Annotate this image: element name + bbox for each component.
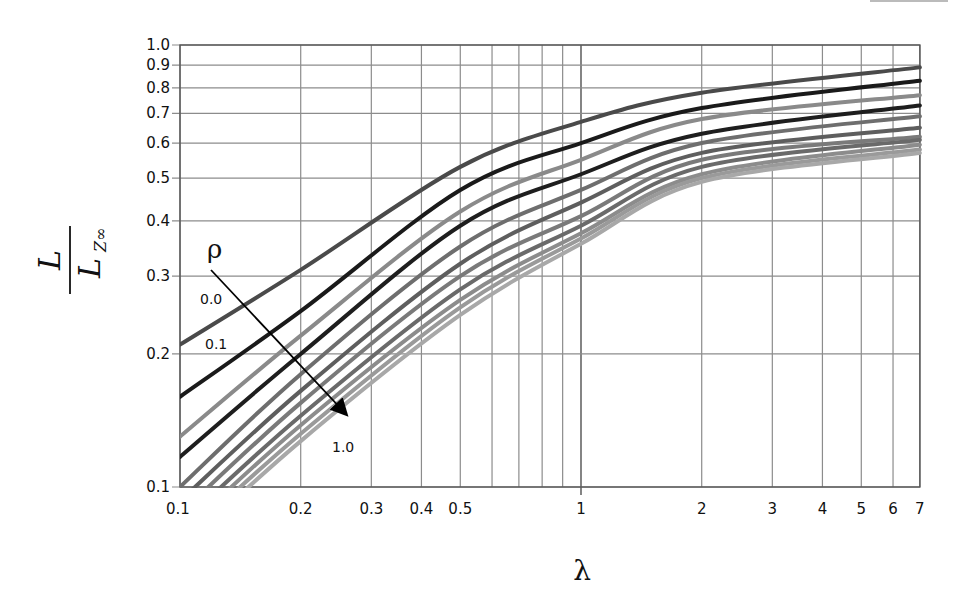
y-tick-label: 0.3: [146, 267, 170, 285]
y-tick-label: 0.4: [146, 212, 170, 230]
x-axis-label: λ: [573, 554, 591, 587]
x-tick-label: 0.2: [289, 500, 313, 518]
x-tick-label: 1: [576, 500, 586, 518]
y-tick-label: 0.6: [146, 134, 170, 152]
rho-label-0-0: 0.0: [200, 291, 222, 307]
tick-labels: 0.10.20.30.40.50.60.70.80.91.00.10.20.30…: [146, 36, 925, 518]
curve-rho-0: [180, 67, 920, 344]
y-tick-label: 0.5: [146, 169, 170, 187]
curve-rho-6: [180, 137, 920, 514]
y-tick-label: 0.1: [146, 478, 170, 496]
chart-svg: 0.10.20.30.40.50.60.70.80.91.00.10.20.30…: [0, 0, 962, 606]
y-tick-label: 0.2: [146, 345, 170, 363]
y-axis-label: L L Z∞: [32, 226, 110, 294]
rho-symbol: ρ: [207, 234, 222, 264]
y-label-numerator: L: [32, 250, 67, 271]
rho-label-1-0: 1.0: [332, 439, 354, 455]
x-tick-label: 7: [915, 500, 925, 518]
x-tick-label: 3: [768, 500, 778, 518]
y-tick-label: 0.7: [146, 104, 170, 122]
y-tick-label: 0.9: [146, 56, 170, 74]
x-tick-label: 6: [888, 500, 898, 518]
plot-frame: [180, 45, 920, 487]
curves: [180, 67, 920, 550]
curve-rho-7: [180, 140, 920, 525]
y-tick-label: 1.0: [146, 36, 170, 54]
x-tick-label: 0.3: [359, 500, 383, 518]
x-tick-label: 0.1: [166, 500, 190, 518]
x-tick-label: 4: [818, 500, 828, 518]
chart-container: 0.10.20.30.40.50.60.70.80.91.00.10.20.30…: [0, 0, 962, 606]
x-tick-label: 5: [857, 500, 867, 518]
x-tick-label: 0.5: [448, 500, 472, 518]
curve-rho-10: [180, 153, 920, 550]
x-tick-label: 0.4: [409, 500, 433, 518]
rho-label-0-1: 0.1: [205, 336, 227, 352]
y-tick-label: 0.8: [146, 79, 170, 97]
x-tick-label: 2: [697, 500, 707, 518]
y-label-subscript: Z∞: [91, 228, 110, 253]
y-label-denominator: L: [72, 258, 107, 279]
